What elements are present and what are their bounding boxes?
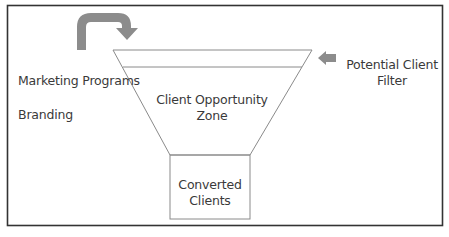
opportunity-zone-label: Client Opportunity Zone [142,92,282,124]
potential-client-filter-label: Potential Client Filter [346,57,438,89]
opportunity-zone-line1: Client Opportunity [142,92,282,108]
curved-arrow-icon [77,13,138,50]
potential-client-filter-line1: Potential Client [346,57,438,73]
converted-clients-line2: Clients [170,193,250,209]
converted-clients-label: Converted Clients [170,177,250,209]
marketing-programs-label: Marketing Programs [18,73,140,89]
branding-label: Branding [18,107,73,123]
left-arrow-icon [318,51,336,65]
potential-client-filter-line2: Filter [346,73,438,89]
converted-clients-line1: Converted [170,177,250,193]
opportunity-zone-line2: Zone [142,108,282,124]
